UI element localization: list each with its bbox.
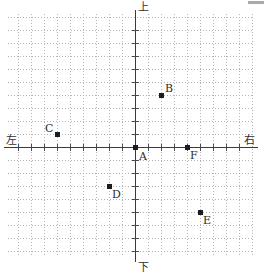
x-axis-tick bbox=[226, 144, 227, 151]
grid-line-vertical bbox=[187, 14, 188, 256]
grid-line-horizontal bbox=[8, 160, 254, 161]
y-axis-tick bbox=[132, 212, 139, 213]
grid-line-vertical bbox=[200, 14, 201, 256]
y-axis-tick bbox=[132, 134, 139, 135]
grid-line-horizontal bbox=[8, 69, 254, 70]
data-point-a[interactable] bbox=[133, 145, 138, 150]
grid-line-vertical bbox=[96, 14, 97, 256]
point-label-c: C bbox=[45, 123, 53, 134]
grid-line-vertical bbox=[239, 14, 240, 256]
y-axis-tick bbox=[132, 108, 139, 109]
grid-line-vertical bbox=[44, 14, 45, 256]
point-label-f: F bbox=[190, 150, 198, 161]
grid-line-vertical bbox=[70, 14, 71, 256]
y-axis-tick bbox=[132, 225, 139, 226]
x-axis-tick bbox=[161, 144, 162, 151]
y-axis-tick bbox=[132, 186, 139, 187]
grid-line-vertical bbox=[213, 14, 214, 256]
grid-line-horizontal bbox=[8, 56, 254, 57]
grid-line-vertical bbox=[226, 14, 227, 256]
x-axis-tick bbox=[239, 144, 240, 151]
grid-line-horizontal bbox=[8, 17, 254, 18]
y-axis-tick bbox=[132, 160, 139, 161]
grid-line-vertical bbox=[18, 14, 19, 256]
data-point-b[interactable] bbox=[159, 93, 164, 98]
x-axis bbox=[4, 147, 258, 148]
direction-label-right: 右 bbox=[244, 135, 255, 146]
y-axis-tick bbox=[132, 238, 139, 239]
x-axis-tick bbox=[148, 144, 149, 151]
grid-line-vertical bbox=[83, 14, 84, 256]
y-axis-tick bbox=[132, 69, 139, 70]
x-axis-tick bbox=[122, 144, 123, 151]
grid-line-horizontal bbox=[8, 173, 254, 174]
y-axis-tick bbox=[132, 30, 139, 31]
y-axis-tick bbox=[132, 121, 139, 122]
x-axis-tick bbox=[18, 144, 19, 151]
grid-line-horizontal bbox=[8, 199, 254, 200]
grid-line-horizontal bbox=[8, 108, 254, 109]
point-label-e: E bbox=[203, 215, 211, 226]
x-axis-tick bbox=[83, 144, 84, 151]
point-label-b: B bbox=[165, 83, 173, 94]
direction-label-bottom: 下 bbox=[138, 262, 149, 273]
y-axis-tick bbox=[132, 95, 139, 96]
x-axis-tick bbox=[70, 144, 71, 151]
x-axis-tick bbox=[44, 144, 45, 151]
grid-line-vertical bbox=[122, 14, 123, 256]
x-axis-tick bbox=[174, 144, 175, 151]
y-axis-tick bbox=[132, 43, 139, 44]
y-axis-tick bbox=[132, 251, 139, 252]
grid-line-horizontal bbox=[8, 251, 254, 252]
grid-line-vertical bbox=[109, 14, 110, 256]
coordinate-grid-figure: 上 下 左 右 ABCDEF bbox=[0, 0, 266, 276]
direction-label-left: 左 bbox=[6, 135, 17, 146]
grid-line-horizontal bbox=[8, 238, 254, 239]
x-axis-tick bbox=[200, 144, 201, 151]
x-axis-tick bbox=[213, 144, 214, 151]
data-point-c[interactable] bbox=[55, 132, 60, 137]
grid-line-horizontal bbox=[8, 30, 254, 31]
y-axis-tick bbox=[132, 173, 139, 174]
grid-line-horizontal bbox=[8, 186, 254, 187]
y-axis-tick bbox=[132, 56, 139, 57]
y-axis-tick bbox=[132, 199, 139, 200]
direction-label-top: 上 bbox=[138, 2, 149, 13]
grid-line-vertical bbox=[31, 14, 32, 256]
x-axis-tick bbox=[109, 144, 110, 151]
point-label-a: A bbox=[139, 151, 147, 162]
grid-line-horizontal bbox=[8, 212, 254, 213]
x-axis-tick bbox=[57, 144, 58, 151]
x-axis-tick bbox=[96, 144, 97, 151]
grid-line-horizontal bbox=[8, 82, 254, 83]
point-label-d: D bbox=[112, 189, 121, 200]
x-axis-tick bbox=[31, 144, 32, 151]
grid-line-vertical bbox=[148, 14, 149, 256]
grid-line-horizontal bbox=[8, 95, 254, 96]
y-axis-tick bbox=[132, 82, 139, 83]
grid-line-horizontal bbox=[8, 43, 254, 44]
grid-line-vertical bbox=[161, 14, 162, 256]
grid-line-vertical bbox=[174, 14, 175, 256]
grid-line-horizontal bbox=[8, 225, 254, 226]
